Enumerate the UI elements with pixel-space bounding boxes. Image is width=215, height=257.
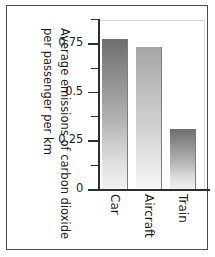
axis-tick-major bbox=[88, 140, 99, 142]
category-label-train: Train bbox=[176, 194, 190, 223]
bar-aircraft bbox=[136, 47, 162, 189]
y-axis-title: Average emissions of carbon dioxide per … bbox=[29, 28, 73, 188]
y-axis-title-line-1: Average emissions of carbon dioxide bbox=[56, 28, 73, 188]
bar-edge bbox=[127, 39, 129, 189]
axis-tick-major bbox=[88, 92, 99, 94]
category-label-aircraft: Aircraft bbox=[142, 194, 156, 238]
y-axis-title-line-2: per passenger per km bbox=[40, 28, 57, 188]
bar-edge bbox=[195, 129, 197, 189]
bar-fill bbox=[170, 129, 196, 189]
axis-tick-minor bbox=[91, 19, 99, 20]
axis-tick-minor bbox=[91, 165, 99, 166]
axis-tick-major bbox=[88, 189, 99, 191]
axis-tick-minor bbox=[91, 116, 99, 117]
bar-train bbox=[170, 129, 196, 189]
axis-tick-minor bbox=[91, 68, 99, 69]
axis-tick-major bbox=[88, 43, 99, 45]
bar-car bbox=[102, 39, 128, 189]
category-axis-line bbox=[98, 189, 210, 191]
chart-frame: 00.250.50.75 CarAircraftTrain Average em… bbox=[6, 5, 208, 250]
bar-edge bbox=[161, 47, 163, 189]
category-label-car: Car bbox=[108, 194, 122, 215]
bar-fill bbox=[136, 47, 162, 189]
bar-fill bbox=[102, 39, 128, 189]
